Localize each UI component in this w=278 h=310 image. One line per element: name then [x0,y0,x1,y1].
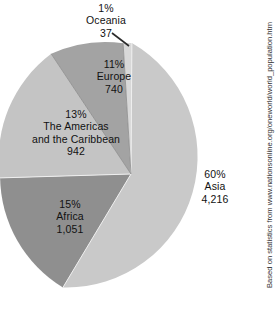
americas-name-line1: The Americas [2,120,150,132]
europe-value: 740 [64,83,164,95]
slice-label-oceania: 1% Oceania 37 [52,2,160,39]
africa-name: Africa [22,210,118,222]
asia-name: Asia [172,180,258,192]
slice-label-europe: 11% Europe 740 [64,58,164,95]
africa-percent: 15% [22,198,118,210]
pie-chart: 1% Oceania 37 11% Europe 740 13% The Ame… [0,0,278,310]
asia-value: 4,216 [172,193,258,205]
slice-label-americas: 13% The Americas and the Caribbean 942 [2,108,150,158]
oceania-name: Oceania [52,14,160,26]
asia-percent: 60% [172,168,258,180]
americas-percent: 13% [2,108,150,120]
europe-percent: 11% [64,58,164,70]
oceania-percent: 1% [52,2,160,14]
africa-value: 1,051 [22,223,118,235]
slice-label-asia: 60% Asia 4,216 [172,168,258,205]
credit-container: Based on statistics from www.nationsonli… [260,0,278,310]
slice-label-africa: 15% Africa 1,051 [22,198,118,235]
oceania-value: 37 [52,27,160,39]
europe-name: Europe [64,70,164,82]
americas-value: 942 [2,145,150,157]
source-credit: Based on statistics from www.nationsonli… [265,22,274,288]
americas-name-line2: and the Caribbean [2,133,150,145]
